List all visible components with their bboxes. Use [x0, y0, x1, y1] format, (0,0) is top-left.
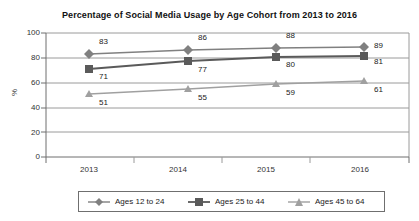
- data-label-s2-2016: 81: [374, 58, 383, 66]
- triangle-marker-icon: [287, 196, 311, 208]
- series-line-ages-25-to-44: [85, 52, 368, 73]
- data-label-s1-2013: 83: [99, 38, 108, 46]
- square-marker-icon: [187, 196, 211, 208]
- axis-lines: [46, 33, 409, 157]
- data-label-s1-2014: 86: [198, 34, 207, 42]
- legend-item-ages-45-to-64[interactable]: Ages 45 to 64: [287, 192, 364, 211]
- x-axis-ticks: [46, 157, 409, 163]
- data-label-s1-2016: 89: [374, 42, 383, 50]
- x-tick-label-2016: 2016: [330, 166, 390, 174]
- legend-label-ages-45-to-64: Ages 45 to 64: [315, 197, 364, 206]
- series-line-ages-45-to-64: [85, 77, 368, 97]
- data-label-s3-2013: 51: [99, 99, 108, 107]
- plot-area: [0, 0, 419, 221]
- legend-label-ages-12-to-24: Ages 12 to 24: [115, 197, 164, 206]
- y-axis-ticks: [41, 33, 46, 157]
- legend-label-ages-25-to-44: Ages 25 to 44: [215, 197, 264, 206]
- x-tick-label-2013: 2013: [59, 166, 119, 174]
- gridlines: [46, 33, 409, 132]
- data-label-s1-2015: 88: [286, 32, 295, 40]
- diamond-marker-icon: [87, 196, 111, 208]
- data-label-s3-2016: 61: [374, 86, 383, 94]
- data-label-s2-2014: 77: [198, 66, 207, 74]
- legend-item-ages-12-to-24[interactable]: Ages 12 to 24: [87, 192, 164, 211]
- x-tick-label-2014: 2014: [148, 166, 208, 174]
- data-label-s2-2013: 71: [99, 73, 108, 81]
- data-label-s2-2015: 80: [286, 61, 295, 69]
- data-label-s3-2015: 59: [286, 89, 295, 97]
- x-tick-label-2015: 2015: [236, 166, 296, 174]
- chart-legend: Ages 12 to 24 Ages 25 to 44 Ages 45 to 6…: [78, 191, 385, 212]
- chart-container: Percentage of Social Media Usage by Age …: [0, 0, 419, 221]
- data-label-s3-2014: 55: [198, 94, 207, 102]
- legend-item-ages-25-to-44[interactable]: Ages 25 to 44: [187, 192, 264, 211]
